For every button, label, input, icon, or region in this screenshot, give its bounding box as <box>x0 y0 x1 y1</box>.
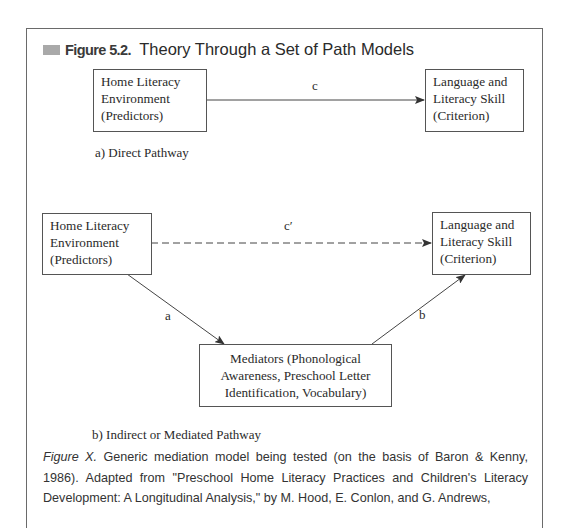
box-line: Literacy Skill <box>440 233 523 250</box>
box-line: (Predictors) <box>101 107 199 124</box>
box-line: (Criterion) <box>440 250 523 267</box>
figure-caption: Figure X. Generic mediation model being … <box>43 447 528 509</box>
mediator-box: Mediators (Phonological Awareness, Presc… <box>199 344 392 407</box>
box-line: (Predictors) <box>50 251 144 268</box>
predictor-box-b: Home Literacy Environment (Predictors) <box>42 213 152 275</box>
path-a-arrow <box>127 274 224 344</box>
caption-text: Generic mediation model being tested (on… <box>43 450 528 505</box>
criterion-box-b: Language and Literacy Skill (Criterion) <box>432 212 531 275</box>
box-line: Language and <box>433 73 516 90</box>
path-b-label: b <box>419 307 426 323</box>
box-line: Environment <box>101 90 199 107</box>
path-a-label: a <box>165 308 171 324</box>
box-line: Awareness, Preschool Letter <box>207 367 384 384</box>
path-c-label: c <box>312 78 318 94</box>
criterion-box-a: Language and Literacy Skill (Criterion) <box>425 69 524 132</box>
predictor-box-a: Home Literacy Environment (Predictors) <box>93 69 207 132</box>
box-line: Literacy Skill <box>433 90 516 107</box>
box-line: Language and <box>440 216 523 233</box>
box-line: Mediators (Phonological <box>207 350 384 367</box>
path-c-prime-label: c′ <box>284 218 293 234</box>
box-line: (Criterion) <box>433 107 516 124</box>
box-line: Home Literacy <box>50 217 144 234</box>
box-line: Identification, Vocabulary) <box>207 384 384 401</box>
caption-lead: Figure X. <box>43 450 97 464</box>
panel-b-subtitle: b) Indirect or Mediated Pathway <box>92 427 261 443</box>
box-line: Home Literacy <box>101 73 199 90</box>
panel-a-subtitle: a) Direct Pathway <box>95 145 189 161</box>
box-line: Environment <box>50 234 144 251</box>
